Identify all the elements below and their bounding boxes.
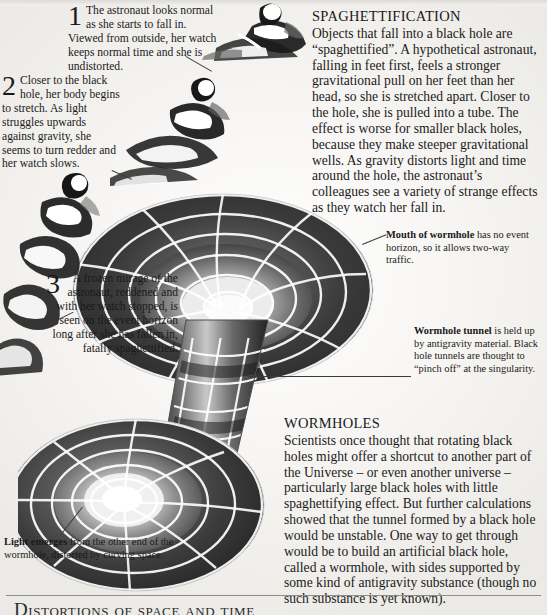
callout-light-lead: Light emerges <box>4 536 67 547</box>
spaghettification-body: Objects that fall into a black hole are … <box>312 26 542 216</box>
callout-tunnel-lead: Wormhole tunnel <box>414 325 492 336</box>
spaghettification-heading: SPAGHETTIFICATION <box>312 8 542 25</box>
illustration-page: 1 The astronaut looks normal as she star… <box>0 0 547 615</box>
footer-title: Distortions of space and time <box>14 599 255 615</box>
wormholes-body: Scientists once thought that rotating bl… <box>284 433 542 607</box>
step-3-number: 3 <box>46 273 60 295</box>
step-3-text: A frozen mirage of the astronaut, redden… <box>46 272 178 355</box>
step-2-number: 2 <box>2 75 16 97</box>
leader-line-tunnel <box>249 376 411 377</box>
step-1-number: 1 <box>68 5 82 27</box>
callout-mouth-of-wormhole: Mouth of wormhole has no event horizon, … <box>386 229 536 267</box>
callout-wormhole-tunnel: Wormhole tunnel is held up by antigravit… <box>414 325 542 376</box>
wormholes-heading: WORMHOLES <box>284 415 542 432</box>
callout-mouth-lead: Mouth of wormhole <box>386 229 474 240</box>
section-wormholes: WORMHOLES Scientists once thought that r… <box>284 415 542 607</box>
step-2-text: Closer to the black hole, her body begin… <box>2 74 120 171</box>
callout-light-emerges: Light emerges from the other end of the … <box>4 536 182 561</box>
footer-divider <box>6 595 541 596</box>
step-3: 3 A frozen mirage of the astronaut, redd… <box>46 272 178 355</box>
astronaut-2 <box>108 72 238 192</box>
step-2: 2 Closer to the black hole, her body beg… <box>2 74 120 171</box>
section-spaghettification: SPAGHETTIFICATION Objects that fall into… <box>312 8 542 216</box>
